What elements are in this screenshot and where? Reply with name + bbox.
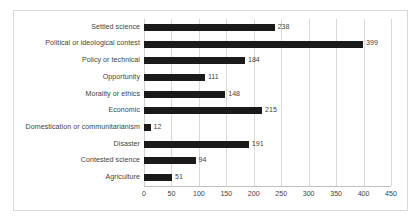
category-label: Morality or ethics bbox=[85, 91, 140, 98]
bar-value-label: 184 bbox=[248, 57, 260, 64]
category-label: Disaster bbox=[114, 141, 140, 148]
bar-row: Policy or technical184 bbox=[144, 52, 391, 69]
bar[interactable] bbox=[144, 107, 262, 114]
bar[interactable] bbox=[144, 91, 225, 98]
x-tick-label: 250 bbox=[275, 191, 287, 198]
category-label: Economic bbox=[108, 107, 140, 114]
bar-row: Agriculture51 bbox=[144, 169, 391, 186]
bar[interactable] bbox=[144, 174, 172, 181]
bar-row: Contested science94 bbox=[144, 153, 391, 170]
bar[interactable] bbox=[144, 157, 196, 164]
gridline-450 bbox=[391, 19, 392, 186]
bar-row: Political or ideological contest399 bbox=[144, 36, 391, 53]
bar-value-label: 111 bbox=[208, 74, 219, 81]
x-tick-label: 350 bbox=[330, 191, 342, 198]
bar-row: Morality or ethics148 bbox=[144, 86, 391, 103]
category-label: Settled science bbox=[91, 24, 140, 31]
bar-value-label: 191 bbox=[252, 141, 264, 148]
x-tick-label: 400 bbox=[358, 191, 370, 198]
x-axis-line bbox=[144, 186, 392, 187]
bar-value-label: 215 bbox=[265, 107, 277, 114]
x-tick-label: 50 bbox=[167, 191, 175, 198]
bar-row: Disaster191 bbox=[144, 136, 391, 153]
x-tick-label: 100 bbox=[193, 191, 205, 198]
category-label: Political or ideological contest bbox=[45, 40, 140, 47]
bar[interactable] bbox=[144, 141, 249, 148]
category-label: Opportunity bbox=[103, 74, 140, 81]
category-label: Domestication or communitarianism bbox=[26, 124, 140, 131]
bar-row: Domestication or communitarianism12 bbox=[144, 119, 391, 136]
bar-value-label: 399 bbox=[366, 40, 378, 47]
bar[interactable] bbox=[144, 41, 363, 48]
bar-value-label: 238 bbox=[278, 24, 290, 31]
bar-row: Economic215 bbox=[144, 103, 391, 120]
category-label: Policy or technical bbox=[82, 57, 140, 64]
plot-area: Settled science238Political or ideologic… bbox=[144, 19, 391, 186]
x-tick-label: 0 bbox=[142, 191, 146, 198]
bar-value-label: 12 bbox=[154, 124, 162, 131]
x-tick-label: 300 bbox=[303, 191, 315, 198]
chart-figure: Settled science238Political or ideologic… bbox=[13, 10, 408, 211]
bar[interactable] bbox=[144, 24, 275, 31]
bar-row: Settled science238 bbox=[144, 19, 391, 36]
category-label: Contested science bbox=[81, 157, 140, 164]
bar-series: Settled science238Political or ideologic… bbox=[144, 19, 391, 186]
bar-row: Opportunity111 bbox=[144, 69, 391, 86]
bar-value-label: 148 bbox=[228, 91, 240, 98]
x-tick-label: 450 bbox=[385, 191, 397, 198]
bar-value-label: 51 bbox=[175, 174, 183, 181]
category-label: Agriculture bbox=[106, 174, 140, 181]
bar[interactable] bbox=[144, 74, 205, 81]
bar-value-label: 94 bbox=[199, 157, 207, 164]
bar[interactable] bbox=[144, 57, 245, 64]
x-tick-label: 200 bbox=[248, 191, 260, 198]
x-tick-label: 150 bbox=[220, 191, 232, 198]
x-axis: 050100150200250300350400450 bbox=[144, 186, 391, 206]
bar[interactable] bbox=[144, 124, 151, 131]
